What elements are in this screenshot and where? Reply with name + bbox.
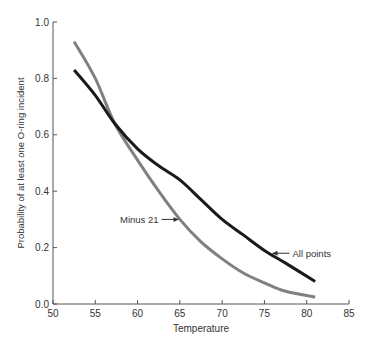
axes: 0.00.20.40.60.81.05055606570758085: [35, 17, 355, 320]
x-tick-label: 70: [217, 308, 229, 319]
y-tick-label: 0.4: [35, 186, 49, 197]
x-tick-label: 80: [301, 308, 313, 319]
y-tick-label: 0.8: [35, 73, 49, 84]
x-tick-label: 55: [90, 308, 102, 319]
x-tick-label: 65: [174, 308, 186, 319]
series-lines: [74, 42, 315, 297]
all-points-label: All points: [293, 248, 332, 259]
y-tick-label: 0.6: [35, 129, 49, 140]
x-tick-label: 60: [132, 308, 144, 319]
x-tick-label: 75: [259, 308, 271, 319]
x-axis-label: Temperature: [173, 323, 230, 334]
x-tick-label: 50: [47, 308, 59, 319]
minus-21-label: Minus 21: [120, 214, 159, 225]
y-tick-label: 1.0: [35, 17, 49, 28]
chart-svg: 0.00.20.40.60.81.05055606570758085 Minus…: [0, 0, 374, 350]
x-tick-label: 85: [343, 308, 355, 319]
y-axis-label: Probability of at least one O-ring incid…: [15, 77, 26, 248]
all-points-line: [74, 70, 315, 282]
y-tick-label: 0.2: [35, 242, 49, 253]
